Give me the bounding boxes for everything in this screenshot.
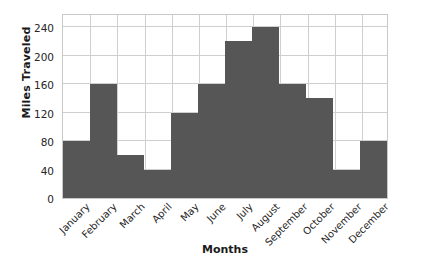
bar: [279, 84, 306, 198]
x-tick-label: June: [205, 201, 228, 224]
y-tick-label: 240: [34, 22, 54, 34]
y-tick-label: 120: [34, 108, 54, 120]
plot-area: [62, 14, 388, 199]
x-tick-label: May: [178, 201, 200, 223]
bar: [225, 41, 252, 198]
bar: [306, 98, 333, 198]
y-tick-label: 200: [34, 51, 54, 63]
bar: [90, 84, 117, 198]
bar: [360, 141, 387, 198]
bar: [198, 84, 225, 198]
bar-series: [63, 15, 387, 198]
bar: [171, 113, 198, 198]
bar: [117, 155, 144, 198]
y-tick-label: 40: [41, 165, 54, 177]
x-tick-label: July: [235, 201, 255, 221]
bar: [63, 141, 90, 198]
x-tick-label: April: [150, 201, 174, 225]
y-axis-tick-labels: 04080120160200240: [0, 0, 58, 268]
x-tick-label: March: [117, 201, 146, 230]
bar: [144, 170, 171, 198]
bar: [252, 27, 279, 198]
y-tick-label: 80: [41, 136, 54, 148]
bar-chart: Miles Traveled 04080120160200240 January…: [0, 0, 429, 268]
x-axis-title: Months: [170, 243, 280, 256]
y-tick-label: 0: [47, 193, 54, 205]
y-tick-label: 160: [34, 79, 54, 91]
bar: [333, 170, 360, 198]
